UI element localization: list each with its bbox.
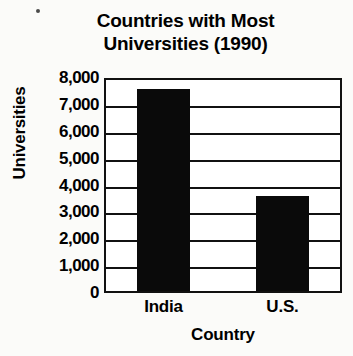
plot-area [104,78,342,293]
bar-india [137,89,190,291]
y-axis-tick-label: 5,000 [20,149,104,169]
y-axis-tick-label: 1,000 [20,256,104,276]
y-axis-tick-label: 0 [20,283,104,303]
chart-title-line-1: Countries with Most [18,9,353,32]
chart-title: Countries with Most Universities (1990) [0,9,353,55]
x-axis-title: Country [104,325,342,345]
y-axis-tick-label: 8,000 [20,68,104,88]
y-axis-tick-label: 6,000 [20,122,104,142]
y-axis-tick-label: 7,000 [20,95,104,115]
bar-u-s [256,196,309,291]
y-axis-tick-label: 2,000 [20,229,104,249]
chart-title-line-2: Universities (1990) [18,32,353,55]
x-axis-tick-label: U.S. [223,297,343,317]
x-axis-tick-label: India [104,297,224,317]
y-axis-tick-labels: 8,0007,0006,0005,0004,0003,0002,0001,000… [10,78,104,293]
y-axis-tick-label: 3,000 [20,202,104,222]
y-axis-tick-label: 4,000 [20,176,104,196]
